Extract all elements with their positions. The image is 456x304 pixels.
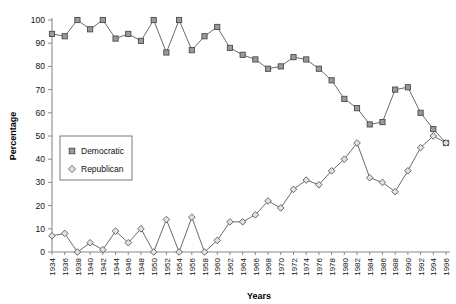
data-point-democratic [176,17,181,22]
x-axis-tick-label: 1952 [163,257,172,275]
x-axis-tick-label: 1980 [341,257,350,275]
data-point-democratic [189,48,194,53]
data-point-republican [379,179,386,186]
x-axis-tick-label: 1976 [315,257,324,275]
x-axis-tick-label: 1964 [239,257,248,275]
legend-label-republican: Republican [81,164,124,174]
data-point-democratic [227,45,232,50]
x-axis-tick-label: 1990 [404,257,413,275]
data-point-republican [239,219,246,226]
chart-container: 0102030405060708090100193419361938194019… [0,0,456,304]
data-point-democratic [380,119,385,124]
data-point-democratic [253,57,258,62]
x-axis-tick-label: 1954 [175,257,184,275]
x-axis-tick-label: 1996 [442,257,451,275]
data-point-democratic [316,66,321,71]
y-axis-tick-label: 60 [36,108,46,118]
data-point-democratic [202,34,207,39]
data-point-democratic [138,38,143,43]
x-axis-tick-label: 1982 [353,257,362,275]
data-point-republican [366,174,373,181]
data-point-republican [163,216,170,223]
x-axis-tick-label: 1962 [226,257,235,275]
data-point-republican [61,230,68,237]
data-point-republican [392,188,399,195]
x-axis-tick-label: 1966 [252,257,261,275]
data-point-democratic [62,34,67,39]
data-point-democratic [367,122,372,127]
data-point-republican [150,249,157,256]
data-point-democratic [354,106,359,111]
x-axis-tick-label: 1986 [379,257,388,275]
data-point-democratic [151,17,156,22]
data-point-democratic [88,27,93,32]
y-axis-tick-label: 30 [36,177,46,187]
data-point-republican [227,219,234,226]
data-point-democratic [49,31,54,36]
y-axis-tick-label: 50 [36,131,46,141]
data-point-republican [87,239,94,246]
x-axis-tick-label: 1944 [112,257,121,275]
x-axis-tick-label: 1934 [48,257,57,275]
data-point-republican [405,168,412,175]
data-point-democratic [278,64,283,69]
data-point-democratic [113,36,118,41]
x-axis-tick-label: 1946 [124,257,133,275]
x-axis-title: Years [247,291,271,301]
y-axis-title: Percentage [8,112,18,161]
x-axis-tick-label: 1988 [391,257,400,275]
y-axis-tick-label: 90 [36,38,46,48]
y-axis-tick-label: 70 [36,85,46,95]
y-axis-tick-label: 10 [36,224,46,234]
data-point-republican [189,214,196,221]
x-axis-tick-label: 1972 [290,257,299,275]
line-chart: 0102030405060708090100193419361938194019… [0,0,456,304]
legend-marker-democratic [69,148,75,154]
x-axis-tick-label: 1950 [150,257,159,275]
x-axis-tick-label: 1960 [213,257,222,275]
x-axis-tick-label: 1968 [264,257,273,275]
data-point-republican [303,177,310,184]
legend-label-democratic: Democratic [81,146,125,156]
data-point-democratic [126,31,131,36]
x-axis-tick-label: 1978 [328,257,337,275]
data-point-democratic [304,57,309,62]
data-point-democratic [418,110,423,115]
data-point-democratic [405,85,410,90]
data-point-republican [74,249,81,256]
data-point-democratic [291,55,296,60]
data-point-democratic [265,66,270,71]
x-axis-tick-label: 1984 [366,257,375,275]
x-axis-tick-label: 1936 [61,257,70,275]
x-axis-tick-label: 1992 [417,257,426,275]
x-axis-tick-label: 1942 [99,257,108,275]
data-point-democratic [164,50,169,55]
data-point-democratic [215,24,220,29]
data-point-democratic [75,17,80,22]
x-axis-tick-label: 1994 [429,257,438,275]
x-axis-tick-label: 1948 [137,257,146,275]
x-axis-tick-label: 1940 [86,257,95,275]
data-point-democratic [240,52,245,57]
data-point-democratic [329,78,334,83]
data-point-republican [277,205,284,212]
data-point-republican [290,186,297,193]
y-axis-tick-label: 40 [36,154,46,164]
x-axis-tick-label: 1956 [188,257,197,275]
data-point-democratic [100,17,105,22]
data-point-republican [49,232,56,239]
x-axis-tick-label: 1958 [201,257,210,275]
x-axis-tick-label: 1970 [277,257,286,275]
x-axis-tick-label: 1974 [302,257,311,275]
data-point-democratic [342,96,347,101]
data-point-republican [176,249,183,256]
y-axis-tick-label: 20 [36,201,46,211]
series-line-democratic [52,20,446,143]
x-axis-tick-label: 1938 [74,257,83,275]
y-axis-tick-label: 0 [40,247,45,257]
data-point-democratic [431,126,436,131]
y-axis-tick-label: 100 [31,15,45,25]
data-point-democratic [393,87,398,92]
y-axis-tick-label: 80 [36,61,46,71]
